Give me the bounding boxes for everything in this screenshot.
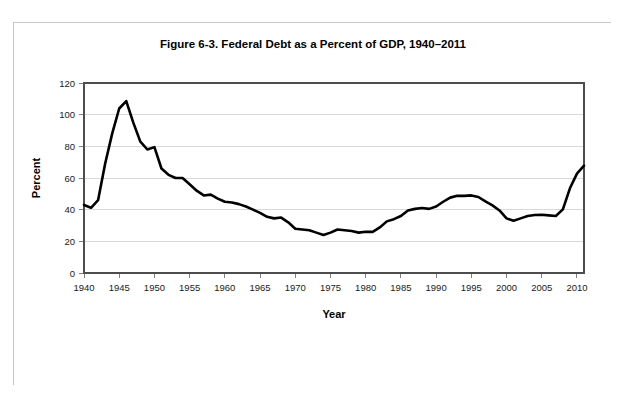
- y-tick-label-40: 40: [64, 204, 75, 215]
- chart-background: [14, 23, 612, 386]
- x-tick-label-2005: 2005: [531, 282, 552, 293]
- x-tick-label-2000: 2000: [496, 282, 517, 293]
- y-tick-label-0: 0: [70, 268, 75, 279]
- x-tick-label-1955: 1955: [179, 282, 200, 293]
- y-axis-title: Percent: [30, 157, 42, 198]
- x-tick-label-1980: 1980: [355, 282, 376, 293]
- x-axis-title: Year: [322, 308, 346, 320]
- x-tick-label-1940: 1940: [73, 282, 94, 293]
- x-tick-label-1960: 1960: [214, 282, 235, 293]
- x-tick-label-1950: 1950: [144, 282, 165, 293]
- x-tick-label-1945: 1945: [109, 282, 130, 293]
- chart-canvas: Figure 6-3. Federal Debt as a Percent of…: [14, 23, 612, 386]
- x-tick-label-1970: 1970: [285, 282, 306, 293]
- x-tick-label-1995: 1995: [461, 282, 482, 293]
- x-tick-label-1985: 1985: [390, 282, 411, 293]
- y-tick-label-80: 80: [64, 141, 75, 152]
- x-tick-label-1965: 1965: [249, 282, 270, 293]
- y-tick-label-20: 20: [64, 236, 75, 247]
- y-tick-label-120: 120: [59, 78, 75, 89]
- x-tick-label-1975: 1975: [320, 282, 341, 293]
- x-tick-labels-group: 1940194519501955196019651970197519801985…: [73, 282, 587, 293]
- x-tick-label-1990: 1990: [426, 282, 447, 293]
- figure-frame: Figure 6-3. Federal Debt as a Percent of…: [13, 22, 611, 385]
- chart-title: Figure 6-3. Federal Debt as a Percent of…: [160, 38, 467, 50]
- x-tick-label-2010: 2010: [566, 282, 587, 293]
- y-tick-label-100: 100: [59, 109, 75, 120]
- y-tick-label-60: 60: [64, 173, 75, 184]
